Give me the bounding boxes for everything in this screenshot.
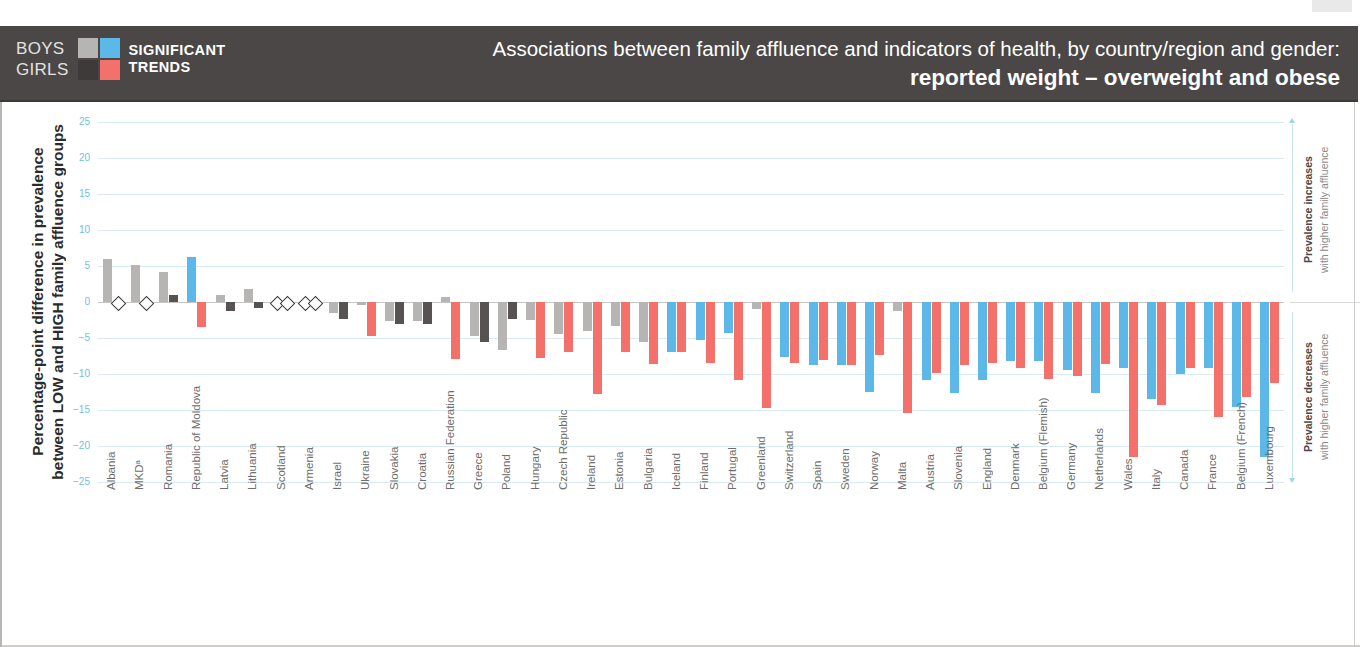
bar-group <box>1006 122 1025 482</box>
bar-girls <box>1157 302 1166 405</box>
bar-girls <box>451 302 460 359</box>
bar-group <box>1147 122 1166 482</box>
bar-group <box>809 122 828 482</box>
x-axis-label: Portugal <box>726 447 738 490</box>
x-axis-label: Luxembourg <box>1263 426 1275 490</box>
x-axis-label: Republic of Moldova <box>190 386 202 490</box>
x-axis-label: Finland <box>698 452 710 490</box>
annotation-decrease-rest: with higher family affluence <box>1318 334 1330 460</box>
legend-trends-text: SIGNIFICANT TRENDS <box>129 42 226 76</box>
bar-boys <box>470 302 479 336</box>
bar-boys <box>385 302 394 321</box>
annotation-decrease-bold: Prevalence decreases <box>1302 342 1314 452</box>
bar-group <box>639 122 658 482</box>
bar-group <box>159 122 178 482</box>
x-axis-label: Denmark <box>1009 443 1021 490</box>
x-axis-label: Poland <box>500 454 512 490</box>
x-axis-label: Norway <box>868 451 880 490</box>
x-axis-label: Sweden <box>839 448 851 490</box>
bar-boys <box>131 265 140 302</box>
x-axis-label: Spain <box>811 461 823 490</box>
bar-group <box>950 122 969 482</box>
bar-group <box>696 122 715 482</box>
x-axis-label: Belgium (French) <box>1235 402 1247 490</box>
x-axis-label: Greece <box>472 452 484 490</box>
bar-girls <box>536 302 545 358</box>
annotation-increase-sub: with higher family affluence <box>1318 126 1331 294</box>
x-axis-label: Ukraine <box>359 450 371 490</box>
bar-girls <box>1186 302 1195 368</box>
bar-boys <box>1204 302 1213 368</box>
bar-series-layer <box>98 122 1284 482</box>
bar-group <box>1063 122 1082 482</box>
bar-boys <box>922 302 931 380</box>
bar-group <box>470 122 489 482</box>
bar-boys <box>498 302 507 350</box>
bar-boys <box>329 302 338 313</box>
bar-boys <box>837 302 846 365</box>
bar-girls <box>1073 302 1082 376</box>
bar-girls <box>423 302 432 324</box>
y-axis-title-text: Percentage-point difference in prevalenc… <box>28 124 68 480</box>
bar-group <box>103 122 122 482</box>
bar-girls <box>1101 302 1110 364</box>
bar-boys <box>893 302 902 311</box>
x-axis-label: Ireland <box>585 455 597 490</box>
bar-girls <box>932 302 941 373</box>
annotation-increase-bold: Prevalence increases <box>1302 157 1314 264</box>
bar-boys <box>1034 302 1043 361</box>
legend-label-boys: BOYS <box>16 38 69 59</box>
decrease-arrow-line <box>1292 312 1293 478</box>
bar-girls <box>706 302 715 363</box>
bar-group <box>752 122 771 482</box>
bar-girls <box>1270 302 1279 383</box>
bar-boys <box>1147 302 1156 399</box>
decrease-arrow-head <box>1289 478 1295 483</box>
chart-title-line1: Associations between family affluence an… <box>330 34 1340 64</box>
bar-group <box>724 122 743 482</box>
bar-boys <box>978 302 987 380</box>
x-axis-label: England <box>981 448 993 490</box>
bar-boys <box>1006 302 1015 361</box>
bar-boys <box>724 302 733 333</box>
bar-group <box>131 122 150 482</box>
x-axis-label: Slovakia <box>388 447 400 490</box>
bar-group <box>244 122 263 482</box>
bar-girls <box>762 302 771 408</box>
bar-group <box>498 122 517 482</box>
bar-girls <box>1242 302 1251 397</box>
x-axis-label: Greenland <box>755 436 767 490</box>
bar-boys <box>244 289 253 302</box>
chart-title-line2: reported weight – overweight and obese <box>330 64 1340 92</box>
zero-marker-girls <box>280 295 296 311</box>
x-axis-label: Israel <box>331 462 343 490</box>
legend-trends-line1: SIGNIFICANT <box>129 42 226 59</box>
bar-group <box>893 122 912 482</box>
bar-group <box>1204 122 1223 482</box>
legend-color-swatch <box>78 38 120 80</box>
annotation-decrease-sub: with higher family affluence <box>1318 314 1331 480</box>
bar-group <box>385 122 404 482</box>
x-axis-label: Lithuania <box>246 443 258 490</box>
bar-girls <box>508 302 517 319</box>
bar-girls <box>790 302 799 363</box>
legend-gender-labels: BOYS GIRLS <box>16 38 69 80</box>
annotation-increase: Prevalence increases <box>1302 126 1315 294</box>
bar-boys <box>526 302 535 320</box>
x-axis-label: Romania <box>162 444 174 490</box>
swatch-boys-significant <box>100 38 120 58</box>
x-axis-label: Netherlands <box>1093 428 1105 490</box>
bar-boys <box>357 302 366 305</box>
bar-girls <box>197 302 206 327</box>
page-top-strip <box>0 0 1358 26</box>
bar-group <box>611 122 630 482</box>
x-axis-label: Wales <box>1122 458 1134 490</box>
bar-girls <box>1044 302 1053 379</box>
bar-boys <box>413 302 422 321</box>
x-axis-label: MKDᵃ <box>133 460 145 490</box>
x-axis-label: Austria <box>924 454 936 490</box>
bar-girls <box>960 302 969 365</box>
bar-boys <box>667 302 676 352</box>
bar-boys <box>752 302 761 309</box>
bar-boys <box>809 302 818 365</box>
